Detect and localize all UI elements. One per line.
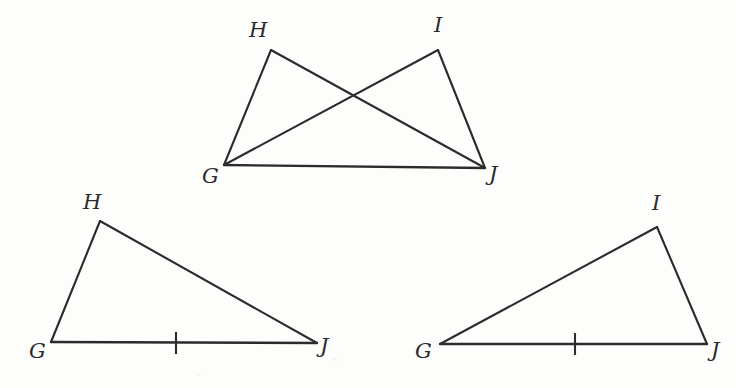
segment-IJ (438, 50, 485, 168)
segment-GH (51, 221, 100, 342)
overlapping-triangles (224, 50, 485, 168)
triangle-gij (440, 227, 707, 355)
segment-HJ (100, 221, 317, 343)
vertex-label-g: G (29, 341, 46, 362)
triangle-ghj (51, 221, 317, 354)
segment-GH (224, 50, 271, 165)
vertex-label-i: I (434, 15, 442, 36)
segment-IJ (657, 227, 707, 344)
segment-HJ (271, 50, 485, 168)
segment-GI (440, 227, 657, 344)
segment-GI (224, 50, 438, 165)
vertex-label-i: I (652, 193, 660, 214)
vertex-label-h: H (83, 192, 101, 213)
vertex-label-j: J (320, 336, 328, 357)
vertex-label-g: G (415, 341, 432, 362)
segment-GJ (224, 165, 485, 168)
vertex-label-h: H (249, 20, 267, 41)
geometry-figure: HIGJHGJIGJ (0, 0, 736, 388)
vertex-label-g: G (202, 166, 219, 187)
vertex-label-j: J (711, 340, 719, 361)
segment-GJ (51, 342, 317, 343)
triangle-line-art (0, 0, 736, 388)
vertex-label-j: J (489, 164, 497, 185)
